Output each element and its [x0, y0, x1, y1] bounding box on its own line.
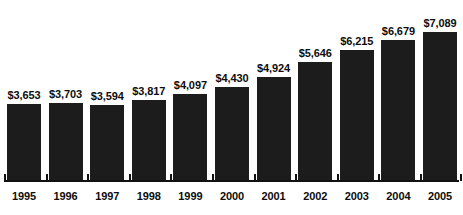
x-axis-tick — [212, 174, 214, 181]
x-axis-tick — [337, 174, 339, 181]
bar-value-label: $6,215 — [340, 35, 373, 47]
x-axis-tick — [4, 174, 6, 181]
x-axis-tick — [46, 174, 48, 181]
bar-value-label: $3,703 — [49, 88, 82, 100]
bar — [423, 32, 457, 180]
plot-area: $3,653$3,703$3,594$3,817$4,097$4,430$4,9… — [0, 0, 463, 181]
bar-value-label: $6,679 — [382, 25, 415, 37]
x-axis-label-1999: 1999 — [168, 190, 212, 202]
bar-value-label: $4,097 — [174, 79, 207, 91]
bar — [381, 40, 415, 180]
bar-value-label: $3,817 — [132, 85, 165, 97]
bar-value-label: $7,089 — [423, 17, 456, 29]
bar — [215, 87, 249, 180]
x-axis-tick — [129, 174, 131, 181]
x-axis-label-2004: 2004 — [376, 190, 420, 202]
x-axis-label-2001: 2001 — [252, 190, 296, 202]
bar — [173, 94, 207, 180]
x-axis-tick — [378, 174, 380, 181]
x-axis-label-1998: 1998 — [127, 190, 171, 202]
x-axis-label-2003: 2003 — [335, 190, 379, 202]
x-axis-tick — [420, 174, 422, 181]
bar-value-label: $5,646 — [299, 47, 332, 59]
bar-value-label: $3,653 — [7, 89, 40, 101]
x-axis-label-2000: 2000 — [210, 190, 254, 202]
bar-value-label: $4,924 — [257, 62, 290, 74]
bar-value-label: $4,430 — [215, 72, 248, 84]
x-axis-tick — [87, 174, 89, 181]
x-axis-line — [4, 180, 459, 182]
x-axis-label-2005: 2005 — [418, 190, 462, 202]
bar — [257, 77, 291, 180]
bar-value-label: $3,594 — [91, 90, 124, 102]
bar — [49, 103, 83, 180]
bar — [340, 50, 374, 180]
x-axis-label-1997: 1997 — [85, 190, 129, 202]
bar — [90, 105, 124, 180]
bar — [132, 100, 166, 180]
x-axis-tick — [254, 174, 256, 181]
x-axis-tick — [295, 174, 297, 181]
x-axis-label-2002: 2002 — [293, 190, 337, 202]
x-axis-tick — [460, 174, 462, 181]
bar-chart: $3,653$3,703$3,594$3,817$4,097$4,430$4,9… — [0, 0, 463, 215]
x-axis-labels: 1995199619971998199920002001200220032004… — [0, 190, 463, 212]
bar — [7, 104, 41, 180]
bar — [298, 62, 332, 180]
x-axis-tick — [170, 174, 172, 181]
x-axis-label-1996: 1996 — [44, 190, 88, 202]
x-axis-label-1995: 1995 — [2, 190, 46, 202]
